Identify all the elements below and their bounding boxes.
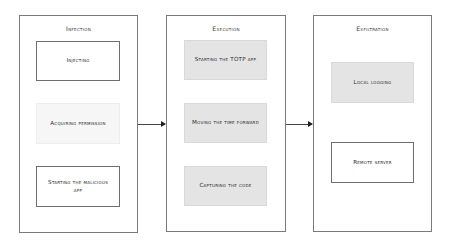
step-starting-totp-app: Starting the TOTP app: [184, 40, 267, 80]
step-capturing-code: Capturing the code: [184, 166, 267, 206]
step-moving-time-forward: Moving the time forward: [184, 103, 267, 143]
step-local-logging: Local logging: [331, 62, 414, 103]
stage-title-infection: Infection: [20, 25, 137, 32]
arrow-execution-to-exfiltration: [286, 124, 312, 125]
stage-title-exfiltration: Exfiltration: [314, 25, 431, 32]
stage-title-execution: Execution: [167, 25, 285, 32]
arrow-infection-to-execution: [138, 124, 165, 125]
step-injecting: Injecting: [36, 41, 120, 81]
step-acquiring-permission: Acquiring permission: [36, 103, 120, 144]
step-starting-malicious-app: Starting the malicious app: [36, 166, 120, 207]
stage-exfiltration: Exfiltration: [313, 15, 432, 232]
step-remote-server: Remote server: [331, 142, 414, 183]
